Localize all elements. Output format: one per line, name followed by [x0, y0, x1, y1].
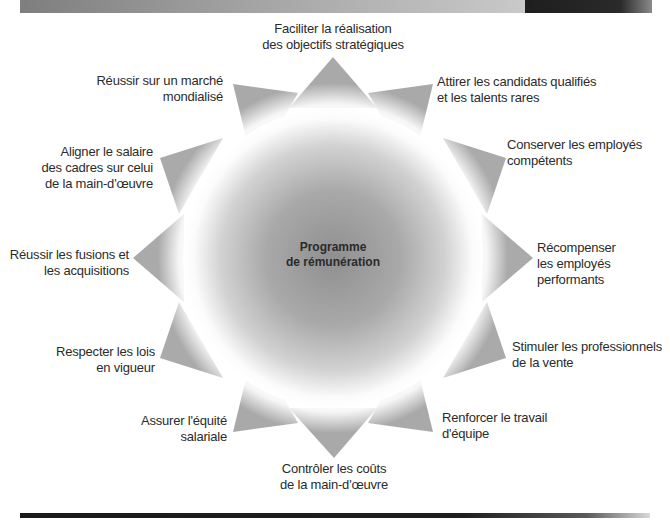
- label-line: en vigueur: [56, 360, 155, 376]
- center-label-line: de rémunération: [233, 255, 433, 270]
- label-line: d'équipe: [442, 426, 547, 442]
- label-line: Attirer les candidats qualifiés: [437, 74, 596, 90]
- label-line: Renforcer le travail: [442, 410, 547, 426]
- label-line: des objectifs stratégiques: [233, 37, 433, 53]
- label-laws: Respecter les lois en vigueur: [56, 344, 155, 376]
- label-line: de la main-d'œuvre: [41, 176, 153, 192]
- label-global-market: Réussir sur un marché mondialisé: [96, 73, 223, 105]
- label-line: mondialisé: [96, 89, 223, 105]
- label-strategic: Faciliter la réalisation des objectifs s…: [233, 21, 433, 53]
- label-line: Réussir sur un marché: [96, 73, 223, 89]
- label-line: Réussir les fusions et: [10, 247, 129, 263]
- label-attract: Attirer les candidats qualifiés et les t…: [437, 74, 596, 106]
- center-label-line: Programme: [233, 240, 433, 255]
- bottom-rule: [20, 513, 650, 518]
- label-line: Récompenser: [537, 240, 616, 256]
- label-line: et les talents rares: [437, 90, 596, 106]
- label-line: des cadres sur celui: [41, 160, 153, 176]
- label-line: les employés: [537, 256, 616, 272]
- label-line: Assurer l'équité: [141, 413, 227, 429]
- label-sales: Stimuler les professionnels de la vente: [512, 339, 662, 371]
- label-line: Respecter les lois: [56, 344, 155, 360]
- label-line: Stimuler les professionnels: [512, 339, 662, 355]
- label-line: salariale: [141, 429, 227, 445]
- label-reward: Récompenser les employés performants: [537, 240, 616, 288]
- label-line: performants: [537, 272, 616, 288]
- label-line: les acquisitions: [10, 263, 129, 279]
- label-line: Aligner le salaire: [41, 144, 153, 160]
- label-pay-equity: Assurer l'équité salariale: [141, 413, 227, 445]
- label-labor-costs: Contrôler les coûts de la main-d'œuvre: [234, 461, 434, 493]
- label-line: compétents: [507, 153, 642, 169]
- label-teamwork: Renforcer le travail d'équipe: [442, 410, 547, 442]
- label-line: Contrôler les coûts: [234, 461, 434, 477]
- label-line: de la main-d'œuvre: [234, 477, 434, 493]
- label-line: de la vente: [512, 355, 662, 371]
- label-retain: Conserver les employés compétents: [507, 137, 642, 169]
- label-line: Faciliter la réalisation: [233, 21, 433, 37]
- label-executive-pay: Aligner le salaire des cadres sur celui …: [41, 144, 153, 192]
- label-mergers: Réussir les fusions et les acquisitions: [10, 247, 129, 279]
- center-label: Programme de rémunération: [233, 240, 433, 270]
- label-line: Conserver les employés: [507, 137, 642, 153]
